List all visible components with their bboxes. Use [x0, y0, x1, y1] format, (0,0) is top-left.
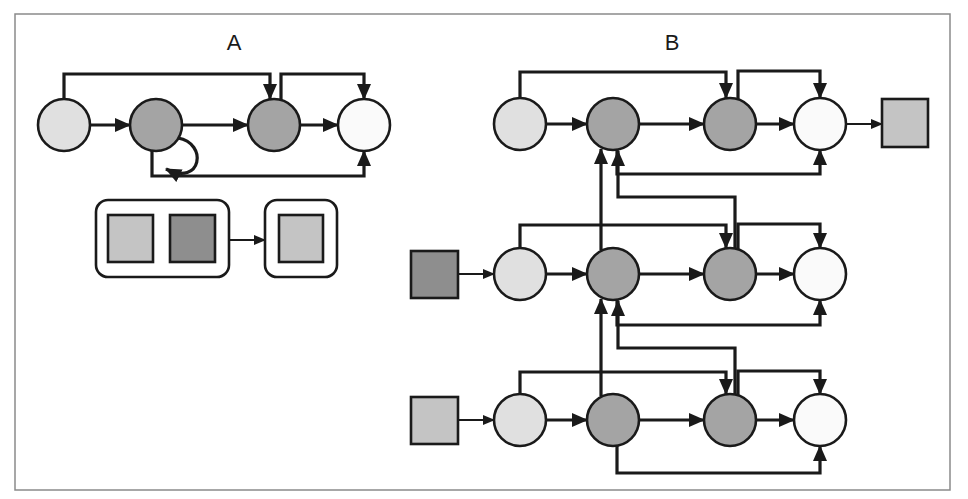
node-a3	[248, 99, 300, 151]
skip-arrow-bottom	[617, 445, 820, 473]
node-b1-2	[587, 98, 639, 150]
node-b3-3	[704, 394, 756, 446]
node-b1-3	[704, 98, 756, 150]
group-square-2	[170, 215, 215, 262]
node-a1	[38, 99, 90, 151]
panel-label-a: A	[227, 30, 242, 56]
node-a2	[130, 99, 182, 151]
node-b2-3	[704, 248, 756, 300]
skip-arrow-top	[520, 225, 726, 248]
feedback-arrow	[618, 151, 735, 251]
node-b1-1	[494, 98, 546, 150]
skip-arrow-top	[738, 371, 820, 397]
skip-arrow-bottom	[617, 149, 820, 174]
target-square	[279, 215, 323, 262]
node-b3-4	[794, 394, 846, 446]
skip-arrow-top	[281, 74, 364, 101]
diagram-canvas	[0, 0, 968, 499]
output-square-row-1	[882, 99, 928, 147]
nodes-layer	[38, 98, 928, 446]
skip-arrow-top	[520, 372, 726, 394]
input-square-row-3	[411, 397, 458, 444]
skip-arrow-top	[520, 72, 726, 98]
skip-arrow-top	[64, 74, 270, 99]
node-b2-4	[794, 248, 846, 300]
panel-label-b: B	[665, 30, 680, 56]
node-b2-1	[494, 248, 546, 300]
node-b2-2	[587, 248, 639, 300]
feedback-arrow	[618, 301, 735, 397]
group-square-1	[108, 215, 153, 262]
skip-arrow-top	[738, 224, 820, 251]
node-b3-1	[494, 394, 546, 446]
node-a4	[338, 99, 390, 151]
skip-arrow-top	[738, 71, 820, 101]
node-b1-4	[794, 98, 846, 150]
input-square-row-2	[411, 251, 458, 298]
node-b3-2	[587, 394, 639, 446]
skip-arrow-bottom	[617, 299, 820, 325]
